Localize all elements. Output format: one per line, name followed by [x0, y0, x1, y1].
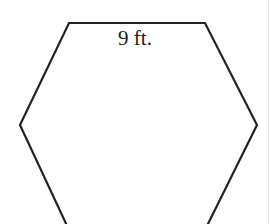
side-length-label: 9 ft.	[0, 28, 270, 49]
diagram-canvas: 9 ft.	[0, 0, 270, 224]
page-edge-divider	[268, 0, 269, 224]
